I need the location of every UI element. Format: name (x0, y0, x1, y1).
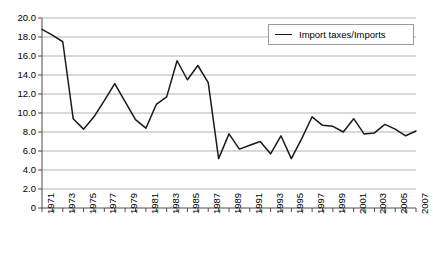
x-tick-label: 1983 (171, 193, 181, 214)
legend-line-swatch (275, 34, 292, 35)
x-tick-label: 1991 (254, 193, 264, 214)
y-tick-label: 18.0 (0, 32, 36, 42)
x-tick-label: 1977 (108, 193, 118, 214)
x-tick-label: 1985 (191, 193, 201, 214)
line-chart: 20.018.016.014.012.010.08.06.04.02.00 19… (0, 0, 433, 267)
legend-label: Import taxes/Imports (299, 29, 386, 40)
x-tick-label: 2003 (378, 193, 388, 214)
x-tick-label: 1981 (150, 193, 160, 214)
x-tick-label: 2001 (358, 193, 368, 214)
y-tick-label: 8.0 (0, 127, 36, 137)
x-tick-label: 1971 (46, 193, 56, 214)
x-tick-label: 1995 (295, 193, 305, 214)
x-tick-label: 1999 (337, 193, 347, 214)
y-tick-label: 10.0 (0, 108, 36, 118)
x-tick-label: 1989 (233, 193, 243, 214)
y-tick-label: 6.0 (0, 146, 36, 156)
x-tick-label: 1987 (212, 193, 222, 214)
x-tick-label: 1979 (129, 193, 139, 214)
y-tick-label: 20.0 (0, 13, 36, 23)
x-tick-label: 1993 (275, 193, 285, 214)
y-tick-label: 4.0 (0, 165, 36, 175)
x-tick-label: 1973 (67, 193, 77, 214)
y-tick-label: 2.0 (0, 184, 36, 194)
x-tick-label: 1997 (316, 193, 326, 214)
x-tick-label: 2005 (399, 193, 409, 214)
y-tick-label: 14.0 (0, 70, 36, 80)
x-tick-label: 2007 (420, 193, 430, 214)
x-tick-label: 1975 (88, 193, 98, 214)
legend: Import taxes/Imports (268, 24, 414, 45)
y-tick-label: 0 (0, 203, 36, 213)
y-tick-label: 12.0 (0, 89, 36, 99)
y-tick-label: 16.0 (0, 51, 36, 61)
